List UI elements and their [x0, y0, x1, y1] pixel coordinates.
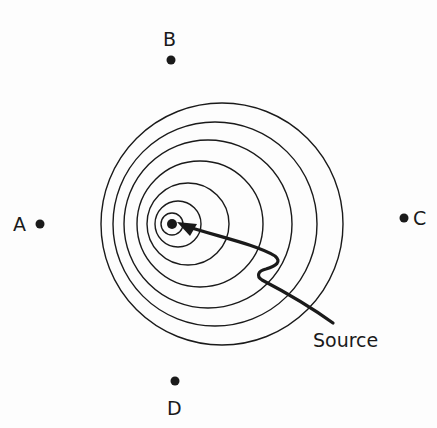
wavefront-circle-4 [137, 161, 263, 287]
observer-dot-b [167, 56, 176, 65]
arrowhead-icon [177, 222, 197, 236]
observer-label-b: B [163, 30, 176, 49]
observer-label-d: D [167, 399, 182, 418]
doppler-diagram: A B C D Source [0, 0, 437, 428]
observer-dot-d [171, 377, 180, 386]
observer-dot-c [400, 214, 409, 223]
wavefronts [101, 103, 343, 345]
observer-dot-a [36, 220, 45, 229]
wavefront-circle-6 [113, 122, 317, 326]
observer-label-a: A [13, 215, 26, 234]
observer-label-c: C [413, 209, 426, 228]
source-label: Source [313, 331, 378, 350]
diagram-canvas [0, 0, 437, 428]
source-dot [167, 219, 177, 229]
